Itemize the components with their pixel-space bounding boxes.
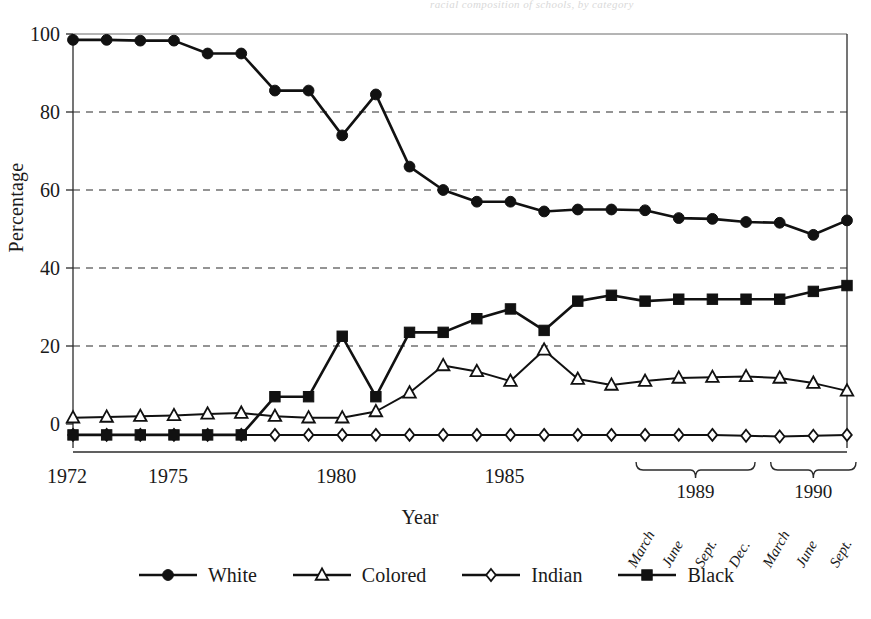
filled-square-marker (616, 565, 678, 585)
data-point-white-7 (303, 85, 314, 96)
data-point-white-23 (842, 215, 853, 226)
data-point-black-5 (236, 430, 246, 440)
data-point-white-21 (774, 217, 785, 228)
data-point-black-17 (640, 296, 650, 306)
data-point-white-11 (438, 185, 449, 196)
data-point-black-11 (438, 327, 448, 337)
legend-label-white: White (206, 565, 257, 585)
data-point-black-10 (404, 327, 414, 337)
data-point-colored-5 (235, 406, 248, 417)
data-point-colored-14 (538, 343, 551, 354)
data-point-black-1 (101, 430, 111, 440)
open-diamond-marker (460, 565, 522, 585)
data-point-white-19 (707, 213, 718, 224)
open-triangle-marker (291, 565, 353, 585)
data-point-white-8 (337, 130, 348, 141)
filled-circle-marker (137, 565, 199, 585)
data-point-indian-23 (842, 429, 852, 441)
data-point-white-17 (640, 205, 651, 216)
data-point-white-4 (202, 48, 213, 59)
data-point-black-18 (674, 294, 684, 304)
series-line-black (73, 286, 847, 435)
data-point-black-14 (539, 325, 549, 335)
legend-item-indian[interactable]: Indian (460, 565, 582, 585)
data-point-black-23 (842, 280, 852, 290)
data-point-white-18 (673, 213, 684, 224)
data-point-indian-22 (809, 430, 819, 442)
data-point-indian-6 (270, 429, 280, 441)
data-point-indian-15 (573, 429, 583, 441)
data-point-white-16 (606, 204, 617, 215)
data-point-white-20 (741, 217, 752, 228)
series-line-white (73, 40, 847, 235)
legend-filled-circle-marker (163, 570, 174, 581)
series-markers-black (68, 280, 852, 440)
data-point-indian-21 (775, 430, 785, 442)
data-point-indian-17 (640, 429, 650, 441)
data-point-white-13 (505, 196, 516, 207)
data-point-white-1 (101, 34, 112, 45)
legend-open-diamond-marker (486, 569, 496, 581)
legend-label-indian: Indian (529, 565, 582, 585)
series-line-colored (73, 350, 847, 418)
chart-legend: WhiteColoredIndianBlack (0, 565, 871, 585)
legend-item-colored[interactable]: Colored (291, 565, 426, 585)
data-point-indian-8 (337, 429, 347, 441)
data-point-black-9 (371, 392, 381, 402)
data-point-indian-19 (708, 429, 718, 441)
data-point-black-2 (135, 430, 145, 440)
data-point-white-9 (370, 89, 381, 100)
data-point-black-19 (707, 294, 717, 304)
data-point-black-13 (505, 304, 515, 314)
data-point-black-16 (606, 290, 616, 300)
racial-composition-line-chart: racial composition of schools, by catego… (0, 0, 871, 619)
data-point-black-21 (774, 294, 784, 304)
data-point-white-14 (539, 206, 550, 217)
data-point-white-2 (135, 35, 146, 46)
data-point-indian-16 (607, 429, 617, 441)
data-point-indian-11 (438, 429, 448, 441)
data-point-white-5 (236, 48, 247, 59)
data-point-white-6 (270, 85, 281, 96)
data-point-white-10 (404, 161, 415, 172)
data-point-black-15 (573, 296, 583, 306)
bracket-1990 (771, 462, 856, 478)
data-point-black-22 (808, 286, 818, 296)
series-markers-colored (67, 343, 854, 422)
data-point-white-12 (471, 196, 482, 207)
data-point-black-4 (202, 430, 212, 440)
legend-label-colored: Colored (360, 565, 426, 585)
legend-label-black: Black (685, 565, 734, 585)
legend-item-black[interactable]: Black (616, 565, 734, 585)
data-point-colored-9 (370, 405, 383, 416)
data-point-white-22 (808, 229, 819, 240)
legend-item-white[interactable]: White (137, 565, 257, 585)
data-point-black-12 (472, 314, 482, 324)
data-point-indian-7 (304, 429, 314, 441)
data-point-black-7 (303, 392, 313, 402)
data-point-indian-12 (472, 429, 482, 441)
data-point-colored-11 (437, 359, 450, 370)
data-point-indian-10 (405, 429, 415, 441)
data-point-white-0 (68, 34, 79, 45)
data-point-colored-10 (403, 386, 416, 397)
legend-filled-square-marker (642, 570, 652, 580)
data-point-white-15 (572, 204, 583, 215)
data-point-black-8 (337, 331, 347, 341)
data-point-indian-20 (741, 430, 751, 442)
data-point-indian-14 (539, 429, 549, 441)
bracket-1989 (636, 462, 755, 478)
plot-area (0, 0, 871, 619)
data-point-black-0 (68, 430, 78, 440)
series-markers-white (68, 34, 853, 240)
data-point-black-3 (169, 430, 179, 440)
data-point-white-3 (169, 35, 180, 46)
data-point-indian-18 (674, 429, 684, 441)
data-point-black-6 (270, 392, 280, 402)
data-point-indian-13 (506, 429, 516, 441)
data-point-indian-9 (371, 429, 381, 441)
data-point-colored-20 (740, 370, 753, 381)
data-point-black-20 (741, 294, 751, 304)
